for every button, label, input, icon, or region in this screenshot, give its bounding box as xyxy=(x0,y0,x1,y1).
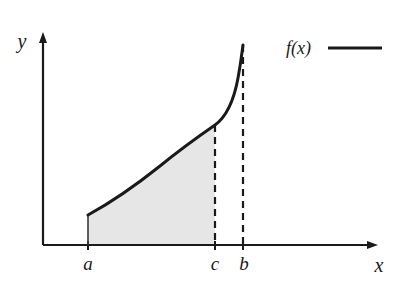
shaded-area-under-curve xyxy=(88,125,215,245)
figure-container: y x a c b f(x) xyxy=(0,0,396,282)
y-axis-label: y xyxy=(16,30,27,53)
legend-label-fx: f(x) xyxy=(286,38,311,59)
legend: f(x) xyxy=(286,38,382,59)
tick-label-b: b xyxy=(239,253,249,274)
function-area-diagram: y x a c b f(x) xyxy=(0,0,396,282)
tick-label-a: a xyxy=(83,253,93,274)
tick-label-c: c xyxy=(211,253,220,274)
x-axis-label: x xyxy=(374,254,384,276)
